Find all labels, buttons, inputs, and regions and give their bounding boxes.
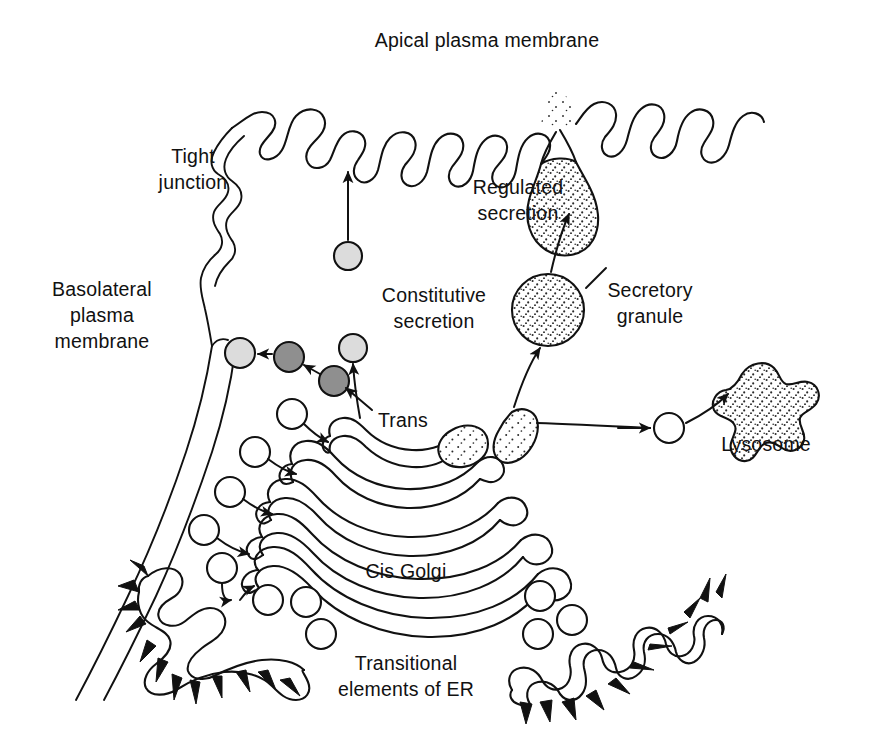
figure-canvas: Apical plasma membrane Tight junction Ba… [0, 0, 886, 740]
constitutive-vesicle-apical [334, 242, 362, 270]
label-secretory-granule-line1: Secretory [607, 279, 692, 301]
label-secretory-granule-line2: granule [617, 305, 683, 327]
label-er-line1: Transitional [355, 652, 457, 674]
vesicle-clear [240, 437, 270, 467]
vesicle-clear [207, 553, 237, 583]
lysosome-bound-vesicle [654, 413, 684, 443]
basolateral-vesicle-fusing [225, 338, 255, 368]
label-er-line2: elements of ER [338, 678, 474, 700]
label-trans: Trans [378, 409, 428, 431]
basolateral-vesicle-1 [274, 342, 304, 372]
vesicle-clear [189, 515, 219, 545]
constitutive-secretion-arrow-lower [353, 364, 360, 418]
label-basolateral-line2: plasma [70, 304, 134, 326]
vesicle-clear [277, 399, 307, 429]
constitutive-vesicle-lower [339, 334, 367, 362]
basolateral-plasma-membrane [76, 339, 248, 700]
label-regulated-line1: Regulated [473, 176, 564, 198]
cell-secretory-pathway-diagram: Apical plasma membrane Tight junction Ba… [0, 0, 886, 740]
basolateral-vesicle-2 [319, 366, 349, 396]
apical-plasma-membrane [232, 102, 764, 187]
vesicle-clear [557, 605, 587, 635]
label-basolateral-line3: membrane [55, 330, 150, 352]
label-constitutive-line1: Constitutive [382, 284, 486, 306]
vesicle-clear [291, 587, 321, 617]
secretory-granule [512, 274, 584, 346]
trans-golgi-network [438, 409, 538, 467]
label-cis-golgi: Cis Golgi [366, 560, 447, 582]
label-lysosome: Lysosome [721, 433, 811, 455]
label-apical-plasma-membrane: Apical plasma membrane [375, 29, 599, 51]
label-basolateral-line1: Basolateral [52, 278, 152, 300]
vesicle-clear [523, 619, 553, 649]
granule-formation-arrow [514, 348, 540, 407]
vesicle-clear [306, 619, 336, 649]
label-tight-junction-line2: junction [158, 171, 228, 193]
label-tight-junction-line1: Tight [171, 145, 215, 167]
vesicle-clear [253, 585, 283, 615]
vesicle-clear [215, 477, 245, 507]
label-constitutive-line2: secretion [394, 310, 475, 332]
secretory-granule-leader [586, 268, 606, 288]
golgi-cisterna-3 [268, 479, 498, 537]
vesicle-clear [525, 581, 555, 611]
label-regulated-line2: secretion [478, 202, 559, 224]
